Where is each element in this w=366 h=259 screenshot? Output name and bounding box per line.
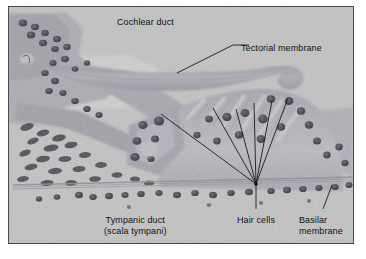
label-basilar-membrane-line1: Basilar bbox=[299, 215, 343, 226]
label-tympanic-duct-line1: Tympanic duct bbox=[104, 215, 167, 226]
label-tympanic-duct-line2: (scala tympani) bbox=[104, 226, 167, 237]
label-basilar-membrane: Basilar membrane bbox=[299, 215, 343, 236]
label-cochlear-duct: Cochlear duct bbox=[117, 17, 174, 28]
label-tectorial-membrane: Tectorial membrane bbox=[241, 43, 322, 54]
figure-panel: Cochlear duct Tectorial membrane Tympani… bbox=[8, 6, 354, 244]
label-tympanic-duct: Tympanic duct (scala tympani) bbox=[104, 215, 167, 236]
label-hair-cells: Hair cells bbox=[237, 215, 275, 226]
label-basilar-membrane-line2: membrane bbox=[299, 226, 343, 237]
